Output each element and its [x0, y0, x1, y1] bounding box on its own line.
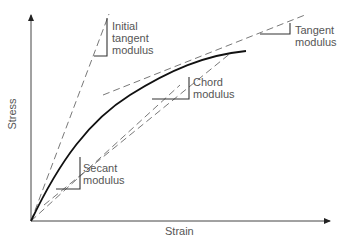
label-line: modulus [295, 36, 337, 48]
label-line: Tangent [295, 24, 337, 36]
chord-line [44, 52, 232, 205]
chord-slope-triangle [152, 77, 189, 99]
initial-tangent-label: Initial tangent modulus [112, 20, 154, 56]
x-axis-label: Strain [165, 225, 194, 237]
label-line: modulus [112, 44, 154, 56]
initial-tangent-line [31, 14, 109, 221]
label-line: Initial [112, 20, 154, 32]
y-axis-label: Stress [6, 98, 18, 129]
secant-slope-triangle [56, 157, 80, 189]
secant-modulus-label: Secant modulus [83, 162, 125, 186]
label-line: modulus [83, 174, 125, 186]
chord-modulus-label: Chord modulus [193, 76, 235, 100]
label-line: modulus [193, 88, 235, 100]
tangent-modulus-label: Tangent modulus [295, 24, 337, 48]
label-line: tangent [112, 32, 154, 44]
label-line: Chord [193, 76, 235, 88]
label-line: Secant [83, 162, 125, 174]
secant-line [31, 85, 180, 221]
tangent-slope-triangle [260, 23, 290, 34]
